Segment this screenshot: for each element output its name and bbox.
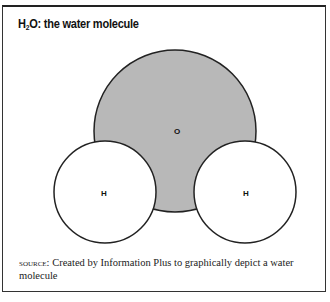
source-note: SOURCE: Created by Information Plus to g… <box>19 256 319 282</box>
oxygen-label: O <box>174 127 180 136</box>
hydrogen-left-label: H <box>101 189 107 198</box>
hydrogen-right-label: H <box>243 189 249 198</box>
source-text: Created by Information Plus to graphical… <box>19 257 294 281</box>
source-label: SOURCE: <box>19 257 50 268</box>
